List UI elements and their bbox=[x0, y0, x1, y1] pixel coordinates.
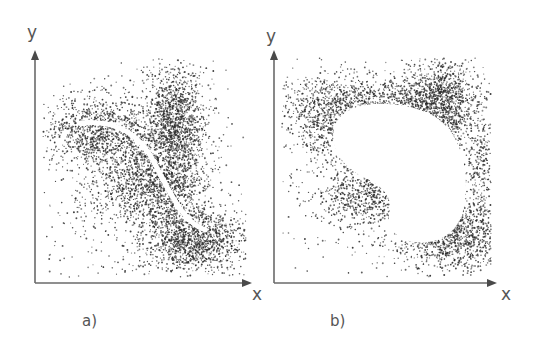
x-axis-label-a: x bbox=[252, 284, 262, 304]
figure: y x a) y x b) bbox=[0, 0, 539, 347]
y-axis-label-b: y bbox=[266, 26, 276, 46]
panel-caption-b: b) bbox=[330, 312, 345, 330]
panel-caption-a: a) bbox=[82, 312, 97, 330]
x-axis-label-b: x bbox=[501, 284, 511, 304]
y-axis-label-a: y bbox=[27, 22, 37, 42]
